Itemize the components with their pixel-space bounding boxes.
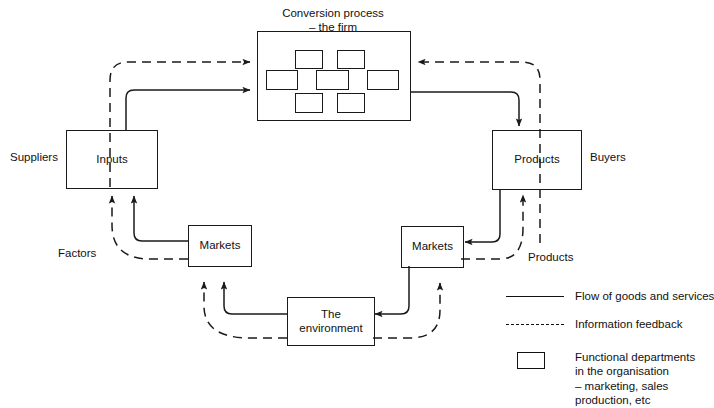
department-box-mid-center <box>316 70 349 90</box>
node-markets-right[interactable]: Markets <box>401 226 464 268</box>
node-inputs[interactable]: Inputs <box>66 130 158 189</box>
department-box-top-left <box>295 50 323 69</box>
box-icon <box>505 352 567 366</box>
label-products-feedback: Products <box>528 251 573 263</box>
node-products[interactable]: Products <box>492 130 582 190</box>
flow-environment-to-marketsleft <box>224 282 287 314</box>
department-box-bottom-right <box>337 93 365 113</box>
legend: Flow of goods and services Information f… <box>505 290 690 375</box>
feedback-marketsright-to-products <box>461 195 523 259</box>
flow-products-to-marketsright <box>465 190 500 242</box>
conversion-process-title: Conversion process – the firm <box>257 6 409 34</box>
department-box-bottom-left <box>295 93 323 113</box>
legend-item-feedback: Information feedback <box>505 318 690 332</box>
flow-inputs-to-firm <box>126 90 250 130</box>
flow-firm-to-products <box>410 92 519 126</box>
feedback-environment-to-marketsright <box>373 283 440 338</box>
department-box-mid-left <box>266 70 298 90</box>
label-buyers: Buyers <box>590 151 626 163</box>
flow-marketsright-to-environment <box>375 266 409 314</box>
dashed-line-icon <box>505 318 567 332</box>
feedback-environment-to-marketsleft <box>204 282 287 338</box>
department-box-top-right <box>337 50 365 69</box>
flow-marketsleft-to-inputs <box>134 196 188 241</box>
legend-item-departments: Functional departments in the organisati… <box>505 352 690 366</box>
legend-label-departments: Functional departments in the organisati… <box>575 350 695 408</box>
legend-label-feedback: Information feedback <box>575 317 682 331</box>
node-environment[interactable]: The environment <box>287 297 375 346</box>
legend-item-flow: Flow of goods and services <box>505 290 690 304</box>
feedback-marketsleft-to-inputs <box>112 196 188 259</box>
solid-line-icon <box>505 290 567 304</box>
label-suppliers: Suppliers <box>10 151 58 163</box>
department-box-mid-right <box>367 70 399 90</box>
node-markets-left[interactable]: Markets <box>188 225 252 267</box>
legend-label-flow: Flow of goods and services <box>575 289 714 303</box>
label-factors: Factors <box>58 247 96 259</box>
